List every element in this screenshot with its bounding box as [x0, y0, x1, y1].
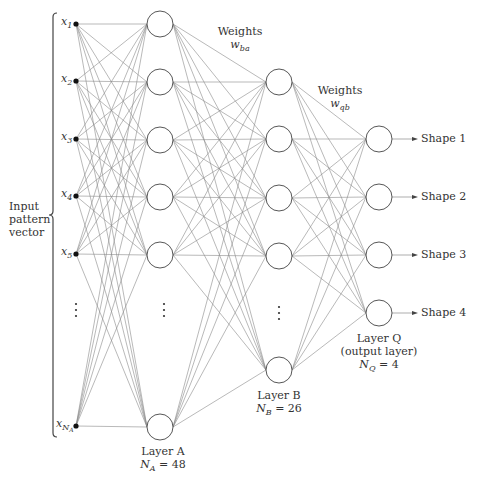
- count-value: = 4: [379, 358, 399, 371]
- weights-title: Weights: [218, 25, 263, 38]
- ellipsis-dot: [75, 309, 77, 311]
- input-label-x1: x1: [61, 15, 72, 32]
- subscript: 2: [67, 78, 72, 87]
- weights-ba-label: Weights wba: [218, 25, 263, 55]
- layer-a-neuron: [147, 11, 173, 37]
- input-label-x6: xNA: [56, 417, 74, 436]
- sub-subscript: A: [69, 426, 73, 433]
- label-line: pattern: [9, 213, 50, 226]
- input-node-dot: [73, 78, 78, 83]
- count-symbol: N: [256, 402, 266, 415]
- layer-b-neuron: [266, 185, 292, 211]
- layer-a-neuron: [147, 414, 173, 440]
- connection-line: [173, 82, 266, 427]
- weight-subscript: ba: [240, 44, 250, 53]
- ellipsis-dot: [75, 303, 77, 305]
- arrow-head-icon: [412, 311, 418, 315]
- arrow-head-icon: [412, 253, 418, 257]
- label-line: vector: [9, 226, 50, 239]
- ellipsis-dot: [278, 318, 280, 320]
- layer-q-neuron: [366, 184, 392, 210]
- input-node-dot: [73, 423, 78, 428]
- count-subscript: B: [266, 408, 272, 417]
- layer-b-neuron: [266, 69, 292, 95]
- count-value: = 26: [275, 402, 302, 415]
- layer-b-neuron: [266, 357, 292, 383]
- input-node-dot: [73, 21, 78, 26]
- nodes: [73, 11, 392, 440]
- connection-line: [173, 256, 266, 427]
- weights-qb-label: Weights wqb: [318, 84, 363, 114]
- output-label-shape-3: Shape 3: [421, 248, 466, 261]
- output-label-shape-4: Shape 4: [421, 306, 466, 319]
- layer-a-neuron: [147, 184, 173, 210]
- connection-line: [292, 256, 366, 313]
- layer-title: Layer A: [140, 445, 186, 458]
- connection-line: [173, 370, 266, 427]
- count-symbol: N: [140, 458, 150, 471]
- arrow-head-icon: [412, 195, 418, 199]
- connection-line: [292, 197, 366, 256]
- ellipsis-dot: [163, 315, 165, 317]
- count-subscript: Q: [369, 364, 376, 373]
- count-subscript: A: [150, 464, 156, 473]
- ellipsis-dot: [163, 309, 165, 311]
- input-pattern-vector-label: Input pattern vector: [9, 200, 50, 239]
- ellipsis-dot: [163, 303, 165, 305]
- output-arrows: [392, 137, 418, 315]
- connection-line: [173, 198, 266, 255]
- layer-title: Layer Q: [341, 332, 418, 345]
- connection-line: [292, 139, 366, 313]
- weight-subscript: qb: [340, 103, 350, 112]
- edges-layer-a-to-layer-b: [173, 24, 266, 427]
- connection-line: [173, 139, 266, 427]
- input-label-x5: x5: [61, 245, 72, 262]
- output-label-shape-2: Shape 2: [421, 190, 466, 203]
- layer-q-neuron: [366, 300, 392, 326]
- weight-symbol: w: [330, 97, 339, 110]
- label-line: Input: [9, 200, 50, 213]
- ellipsis-dot: [75, 315, 77, 317]
- layer-b-neuron: [266, 126, 292, 152]
- ellipsis-dot: [278, 312, 280, 314]
- subscript: 3: [67, 136, 72, 145]
- layer-subtitle: (output layer): [341, 345, 418, 358]
- subscript: 1: [67, 21, 72, 30]
- subscript: 4: [67, 193, 72, 202]
- input-node-dot: [73, 136, 78, 141]
- layer-a-neuron: [147, 242, 173, 268]
- layer-b-caption: Layer B NB = 26: [256, 389, 302, 419]
- connection-line: [173, 198, 266, 427]
- layer-a-caption: Layer A NA = 48: [140, 445, 186, 475]
- ellipsis-dot: [278, 306, 280, 308]
- input-label-x4: x4: [61, 187, 72, 204]
- output-label-shape-1: Shape 1: [421, 132, 466, 145]
- layer-q-neuron: [366, 242, 392, 268]
- count-symbol: N: [359, 358, 369, 371]
- weights-title: Weights: [318, 84, 363, 97]
- subscript: NA: [62, 423, 73, 432]
- edges-input-to-layer-a: [76, 24, 147, 427]
- arrow-head-icon: [412, 137, 418, 141]
- count-value: = 48: [159, 458, 186, 471]
- layer-title: Layer B: [256, 389, 302, 402]
- layer-b-neuron: [266, 243, 292, 269]
- layer-q-neuron: [366, 126, 392, 152]
- neural-network-diagram: Input pattern vector x1x2x3x4x5xNA Weigh…: [0, 0, 478, 483]
- input-node-dot: [73, 193, 78, 198]
- connection-line: [76, 426, 147, 427]
- layer-q-caption: Layer Q (output layer) NQ = 4: [341, 332, 418, 375]
- connection-line: [173, 82, 266, 370]
- layer-a-neuron: [147, 127, 173, 153]
- input-node-dot: [73, 251, 78, 256]
- weight-symbol: w: [230, 38, 239, 51]
- input-label-x2: x2: [61, 72, 72, 89]
- input-label-x3: x3: [61, 130, 72, 147]
- subscript: 5: [67, 251, 72, 260]
- edges-layer-b-to-layer-q: [292, 82, 366, 370]
- layer-a-neuron: [147, 69, 173, 95]
